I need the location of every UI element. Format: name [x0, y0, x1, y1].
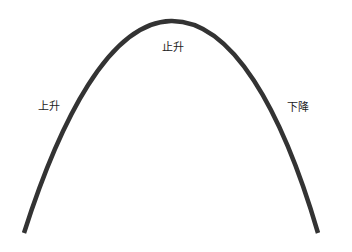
label-stop-rising: 止升: [162, 38, 184, 54]
label-falling: 下降: [287, 98, 309, 114]
label-rising: 上升: [38, 97, 60, 113]
